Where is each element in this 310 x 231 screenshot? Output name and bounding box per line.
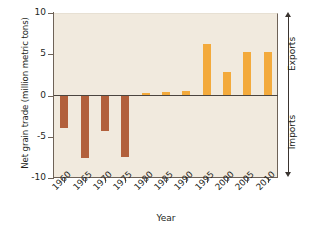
y-tick: [48, 137, 54, 138]
y-tick-label: 10: [35, 7, 46, 17]
y-tick-label: -5: [37, 131, 46, 141]
bar-1965: [81, 96, 89, 159]
arrow-down-icon: [285, 172, 291, 177]
y-tick-label: -10: [31, 172, 46, 182]
y-tick-label: 5: [40, 48, 46, 58]
bar-2010: [264, 52, 272, 96]
bar-1960: [60, 96, 68, 128]
bar-2000: [223, 72, 231, 95]
imports-label: Imports: [287, 114, 297, 149]
bar-1975: [121, 96, 129, 158]
y-tick: [48, 178, 54, 179]
y-tick: [48, 13, 54, 14]
zero-baseline: [54, 95, 278, 96]
bar-1970: [101, 96, 109, 131]
bar-2005: [243, 52, 251, 96]
y-axis-title: Net grain trade (million metric tons): [20, 5, 30, 181]
y-tick-label: 0: [40, 90, 46, 100]
chart-figure: Net grain trade (million metric tons) 10…: [0, 0, 310, 231]
bar-1995: [203, 44, 211, 96]
y-tick: [48, 54, 54, 55]
x-axis-title: Year: [54, 213, 278, 223]
arrow-up-icon: [285, 12, 291, 17]
exports-label: Exports: [287, 37, 297, 71]
